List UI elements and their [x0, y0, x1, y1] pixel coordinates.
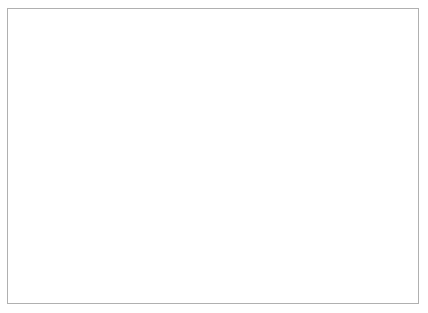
- incidence-line-chart: [0, 0, 428, 313]
- figure: [0, 0, 428, 313]
